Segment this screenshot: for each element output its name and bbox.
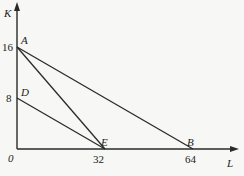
point-label-b: B (187, 136, 194, 148)
segment-ae (17, 47, 105, 149)
tick-label-k-8: 8 (6, 92, 12, 104)
point-label-e: E (100, 136, 108, 148)
k-axis-arrow-icon (14, 2, 20, 11)
isocost-diagram: K L 0 16 8 32 64 A D E B (0, 0, 244, 176)
origin-label: 0 (8, 152, 14, 164)
segment-ab (17, 47, 193, 149)
point-label-d: D (20, 86, 29, 98)
tick-label-k-16: 16 (2, 41, 14, 53)
l-axis-label: L (226, 157, 233, 169)
segment-de (17, 98, 105, 149)
k-axis-label: K (3, 7, 12, 19)
l-axis-arrow-icon (230, 146, 239, 152)
tick-label-l-32: 32 (93, 153, 104, 165)
tick-label-l-64: 64 (185, 153, 197, 165)
point-label-a: A (20, 34, 28, 46)
